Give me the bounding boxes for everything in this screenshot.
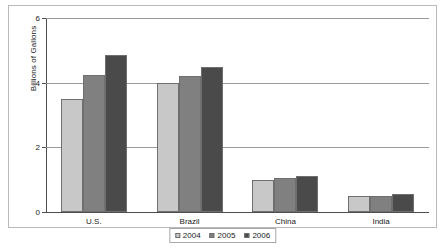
legend-label-2006: 2006 [252,231,270,240]
legend-item-2004: 2004 [175,231,201,240]
chart-legend: 200420052006 [169,228,276,243]
bar-china-2005 [274,178,296,212]
x-axis-label-china: China [275,217,296,226]
legend-swatch-2006 [244,233,249,238]
bar-us-2004 [61,99,83,212]
x-axis-label-brazil: Brazil [180,217,200,226]
y-tick-label-6: 6 [36,14,40,23]
legend-label-2004: 2004 [183,231,201,240]
bar-india-2005 [370,196,392,212]
legend-swatch-2005 [210,233,215,238]
y-tick-label-4: 4 [36,78,40,87]
bar-us-2006 [105,55,127,212]
bar-brazil-2005 [179,76,201,212]
bar-india-2004 [348,196,370,212]
bars-group [46,18,429,212]
legend-item-2006: 2006 [244,231,270,240]
chart-frame: Billions of Gallons 0246 U.S.BrazilChina… [8,5,437,228]
legend-item-2005: 2005 [210,231,236,240]
legend-swatch-2004 [175,233,180,238]
bar-brazil-2004 [157,83,179,212]
bar-chart: Billions of Gallons 0246 U.S.BrazilChina… [0,0,445,250]
x-axis-label-us: U.S. [86,217,102,226]
y-tick-label-0: 0 [36,208,40,217]
x-axis-label-india: India [372,217,389,226]
bar-china-2004 [252,180,274,212]
bar-us-2005 [83,75,105,212]
gridline-0 [46,212,429,213]
y-tick-label-2: 2 [36,143,40,152]
plot-area: 0246 U.S.BrazilChinaIndia [46,18,429,212]
bar-china-2006 [296,176,318,212]
y-tick-mark-0 [42,212,46,213]
bar-india-2006 [392,194,414,212]
legend-label-2005: 2005 [218,231,236,240]
bar-brazil-2006 [201,67,223,213]
